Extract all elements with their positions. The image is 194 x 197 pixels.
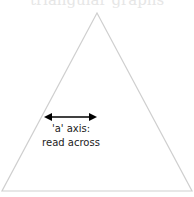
axis-label-line2: read across bbox=[40, 136, 102, 150]
axis-label: 'a' axis: read across bbox=[40, 122, 102, 150]
triangle-outline bbox=[2, 13, 192, 191]
triangle-diagram bbox=[0, 0, 194, 197]
axis-label-line1: 'a' axis: bbox=[40, 122, 102, 136]
